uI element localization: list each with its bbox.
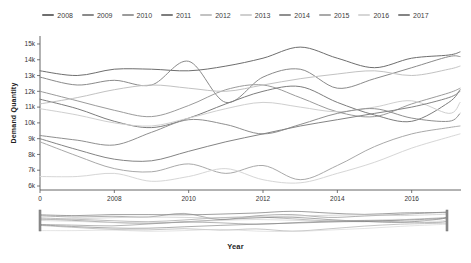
- y-tick-label: 14k: [25, 56, 36, 63]
- legend-item-2016[interactable]: 2016: [358, 12, 389, 19]
- legend-item-2017[interactable]: 2017: [398, 12, 429, 19]
- y-tick-label: 10k: [25, 119, 36, 126]
- y-tick-label: 9k: [28, 135, 36, 142]
- legend-line-swatch: [398, 14, 410, 16]
- series-line-2015: [40, 126, 460, 180]
- legend-item-2010[interactable]: 2010: [122, 12, 153, 19]
- legend-line-swatch: [161, 14, 173, 16]
- x-tick-label: 2010: [181, 195, 196, 202]
- legend-label: 2012: [215, 12, 231, 19]
- y-tick-label: 15k: [25, 40, 36, 47]
- series-line-2010: [40, 85, 460, 117]
- series-line-2008: [40, 47, 460, 75]
- main-chart: 15k14k13k12k11k10k9k8k7k6k02008201020122…: [0, 28, 471, 205]
- x-tick-label: 2016: [404, 195, 419, 202]
- legend-line-swatch: [279, 14, 291, 16]
- legend-item-2013[interactable]: 2013: [240, 12, 271, 19]
- legend-label: 2016: [373, 12, 389, 19]
- series-line-2013: [40, 101, 460, 127]
- chart-canvas: 2008200920102011201220132014201520162017…: [0, 0, 471, 263]
- x-tick-label: 2008: [107, 195, 122, 202]
- legend: 2008200920102011201220132014201520162017: [0, 8, 471, 22]
- y-tick-label: 11k: [25, 103, 36, 110]
- legend-item-2015[interactable]: 2015: [319, 12, 350, 19]
- legend-label: 2009: [97, 12, 113, 19]
- y-tick-label: 12k: [25, 88, 36, 95]
- x-tick-label: 2012: [256, 195, 271, 202]
- legend-item-2009[interactable]: 2009: [82, 12, 113, 19]
- legend-label: 2008: [57, 12, 73, 19]
- x-axis-title: Year: [0, 242, 471, 251]
- legend-label: 2015: [334, 12, 350, 19]
- series-line-2016: [40, 134, 460, 183]
- legend-label: 2017: [413, 12, 429, 19]
- legend-label: 2013: [255, 12, 271, 19]
- brush-handle-right[interactable]: [446, 210, 448, 231]
- legend-line-swatch: [319, 14, 331, 16]
- y-tick-label: 7k: [28, 166, 36, 173]
- legend-item-2008[interactable]: 2008: [42, 12, 73, 19]
- series-line-2014: [40, 109, 460, 146]
- legend-line-swatch: [82, 14, 94, 16]
- navigator-chart[interactable]: [0, 205, 471, 241]
- legend-item-2011[interactable]: 2011: [161, 12, 191, 19]
- brush-handle-left[interactable]: [39, 210, 41, 231]
- legend-line-swatch: [200, 14, 212, 16]
- x-tick-label: 2014: [330, 195, 345, 202]
- y-tick-label: 13k: [25, 72, 36, 79]
- legend-line-swatch: [240, 14, 252, 16]
- legend-label: 2014: [294, 12, 310, 19]
- legend-label: 2011: [176, 12, 191, 19]
- y-tick-label: 6k: [28, 182, 36, 189]
- y-tick-label: 8k: [28, 151, 36, 158]
- legend-line-swatch: [358, 14, 370, 16]
- legend-label: 2010: [137, 12, 153, 19]
- legend-line-swatch: [42, 14, 54, 16]
- x-tick-label: 0: [38, 195, 42, 202]
- legend-item-2012[interactable]: 2012: [200, 12, 231, 19]
- legend-item-2014[interactable]: 2014: [279, 12, 310, 19]
- legend-line-swatch: [122, 14, 134, 16]
